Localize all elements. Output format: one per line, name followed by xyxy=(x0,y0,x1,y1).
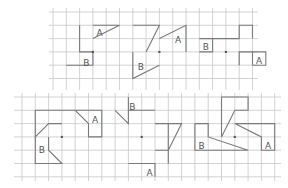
shape-outline xyxy=(115,110,128,123)
rotation-center-dot xyxy=(234,136,236,138)
shape-label-a: A xyxy=(256,56,263,66)
shape-label-b: B xyxy=(198,141,204,151)
rotation-center-dot xyxy=(92,51,94,53)
rotation-center-dot xyxy=(158,51,160,53)
rotation-center-dot xyxy=(141,136,143,138)
shape-label-b: B xyxy=(138,62,144,72)
shape-label-b: B xyxy=(83,58,89,68)
panel-top-right: BA xyxy=(199,25,265,65)
shape-label-a: A xyxy=(96,28,103,38)
shape-label-a: A xyxy=(92,115,99,125)
panel-bottom-middle: BA xyxy=(115,97,182,178)
shape-label-a: A xyxy=(265,141,272,151)
shape-outline xyxy=(213,25,253,38)
shape-label-b: B xyxy=(39,145,45,155)
shape-label-a: A xyxy=(175,35,182,45)
grid-top xyxy=(49,8,258,90)
shape-label-a: A xyxy=(147,168,154,178)
rotation-center-dot xyxy=(61,136,63,138)
shape-label-b: B xyxy=(129,102,135,112)
shape-outline xyxy=(155,150,168,163)
shape-label-b: B xyxy=(203,42,209,52)
rotation-center-dot xyxy=(225,51,227,53)
rotation-figure: ABABBA ABBABA xyxy=(0,0,288,188)
shape-outline xyxy=(239,52,252,65)
